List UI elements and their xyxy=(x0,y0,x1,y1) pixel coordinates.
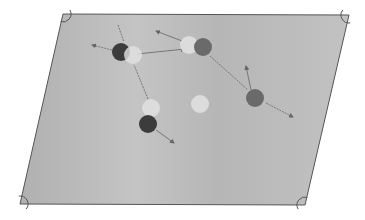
medium-ball-1 xyxy=(194,38,212,56)
diagram-canvas xyxy=(0,0,365,220)
light-ball-3 xyxy=(142,99,160,117)
dark-ball-2 xyxy=(139,115,157,133)
billiard-diagram xyxy=(0,0,365,220)
light-ball-2 xyxy=(191,95,209,113)
ghost-ball-1 xyxy=(124,46,142,64)
medium-ball-2 xyxy=(246,89,264,107)
